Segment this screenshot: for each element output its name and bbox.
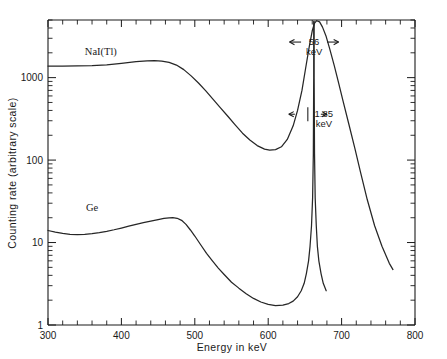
y-axis-ticks xyxy=(48,20,415,325)
series-label-ge: Ge xyxy=(86,202,99,213)
series-label-nai-tl: NaI(Tl) xyxy=(85,46,118,58)
y-tick-label: 100 xyxy=(26,155,43,166)
figure-container: 1101001000 300400500600700800 NaI(Tl)Ge … xyxy=(0,0,447,359)
x-tick-label: 600 xyxy=(260,330,277,341)
x-tick-label: 500 xyxy=(186,330,203,341)
data-curves xyxy=(48,21,393,306)
x-axis-title: Energy in keV xyxy=(197,341,268,353)
annotation-unit: keV xyxy=(316,118,333,129)
series-inline-labels: NaI(Tl)Ge xyxy=(85,46,118,214)
x-axis-ticks xyxy=(48,20,415,325)
y-tick-label: 1000 xyxy=(21,72,44,83)
y-tick-label: 10 xyxy=(32,237,44,248)
curve-ge xyxy=(48,21,326,305)
chart-svg: 1101001000 300400500600700800 NaI(Tl)Ge … xyxy=(0,0,447,359)
y-tick-label: 1 xyxy=(37,320,43,331)
x-axis-tick-labels: 300400500600700800 xyxy=(40,330,424,341)
y-axis-title: Counting rate (arbitrary scale) xyxy=(6,97,18,248)
x-tick-label: 800 xyxy=(407,330,424,341)
y-axis-tick-labels: 1101001000 xyxy=(21,72,44,330)
annotation-unit: keV xyxy=(306,46,323,57)
x-tick-label: 300 xyxy=(40,330,57,341)
plot-frame xyxy=(48,20,415,325)
x-tick-label: 700 xyxy=(333,330,350,341)
x-tick-label: 400 xyxy=(113,330,130,341)
